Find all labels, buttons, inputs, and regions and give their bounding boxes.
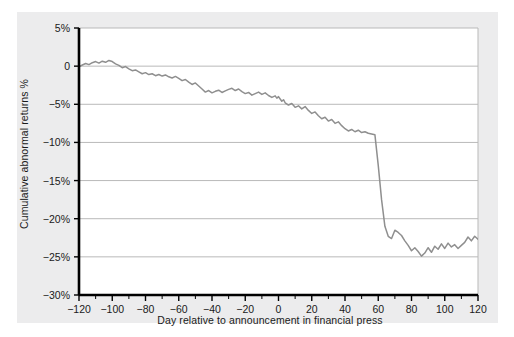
svg-text:−30%: −30% [43,289,70,301]
chart-canvas: −120−100−80−60−40−20020406080100120 5%0−… [0,0,514,337]
svg-text:5%: 5% [55,22,70,34]
y-axis-label: Cumulative abnormal returns % [18,54,30,254]
svg-text:−25%: −25% [43,251,70,263]
y-axis-ticks: 5%0−5%−10%−15%−20%−25%−30% [43,22,79,301]
svg-text:−15%: −15% [43,175,70,187]
x-axis-label: Day relative to announcement in financia… [60,314,480,326]
svg-text:0: 0 [64,60,70,72]
x-axis-ticks: −120−100−80−60−40−20020406080100120 [67,295,487,315]
svg-text:−5%: −5% [49,98,70,110]
svg-text:−20%: −20% [43,213,70,225]
plot-area-background [79,28,478,295]
svg-text:−10%: −10% [43,136,70,148]
